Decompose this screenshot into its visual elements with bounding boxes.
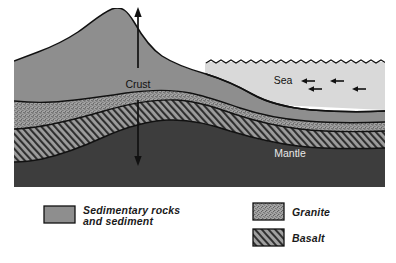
- legend-item-sediment: Sedimentary rocks and sediment: [44, 204, 180, 227]
- cross-section-body: [14, 8, 386, 187]
- legend-swatch-granite: [253, 203, 284, 220]
- legend: Sedimentary rocks and sediment Granite B…: [44, 203, 330, 246]
- legend-item-basalt: Basalt: [253, 229, 325, 246]
- geological-cross-section-figure: Crust Mantle Sea Sedimentary rocks and s…: [0, 0, 396, 263]
- crust-label: Crust: [125, 78, 150, 90]
- legend-item-granite: Granite: [253, 203, 330, 220]
- legend-swatch-basalt: [253, 229, 284, 246]
- mantle-label: Mantle: [274, 147, 306, 159]
- legend-label-basalt: Basalt: [292, 232, 325, 244]
- legend-swatch-sediment: [44, 206, 75, 223]
- legend-label-sediment-line2: and sediment: [83, 215, 153, 227]
- legend-label-granite: Granite: [292, 206, 330, 218]
- sea-label: Sea: [274, 74, 293, 86]
- arrow-head-up: [134, 7, 141, 17]
